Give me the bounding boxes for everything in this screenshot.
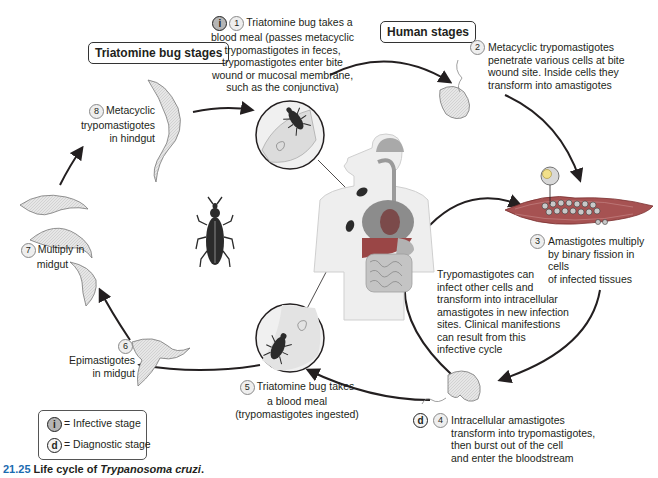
step-text: (trypomastigotes ingested) bbox=[222, 408, 372, 421]
triatomine-bug-icon bbox=[196, 197, 234, 267]
step-text: such as the conjunctiva) bbox=[205, 81, 360, 94]
infective-stage-badge: i bbox=[47, 417, 62, 432]
trypomastigote-4 bbox=[448, 371, 480, 401]
step-number: 1 bbox=[229, 16, 244, 31]
step-text: blood meal (passes metacyclic bbox=[205, 31, 360, 44]
step-text: trypomastigotes bbox=[60, 119, 155, 132]
human-stages-header: Human stages bbox=[380, 21, 476, 43]
caption-text: Life cycle of bbox=[34, 463, 101, 475]
step-text: penetrate various cells at bite bbox=[488, 54, 658, 67]
step-5-label: 5Triatomine bug takes a blood meal (tryp… bbox=[222, 380, 372, 420]
bite-circle-1 bbox=[256, 101, 324, 169]
figure-caption: 21.25 Life cycle of Trypanosoma cruzi. bbox=[3, 463, 204, 475]
step-4-label: d4Intracellular amastigotes transform in… bbox=[451, 414, 641, 464]
step-text: in hindgut bbox=[60, 132, 155, 145]
step-number: 5 bbox=[240, 380, 255, 395]
step-text: wound or mucosal membrane, bbox=[205, 69, 360, 82]
human-figure bbox=[314, 134, 434, 320]
step-number: 2 bbox=[470, 40, 485, 55]
diagnostic-stage-badge: d bbox=[413, 413, 428, 428]
arrow-2-to-3 bbox=[505, 95, 580, 180]
step-text: Amastigotes multiply bbox=[548, 235, 644, 247]
step-text: Triatomine bug takes bbox=[257, 380, 355, 392]
legend-diagnostic: d= Diagnostic stage bbox=[47, 438, 151, 453]
step-text: transform into amastigotes bbox=[488, 79, 658, 92]
arrow-5-to-6 bbox=[140, 365, 260, 370]
step-number: 4 bbox=[433, 413, 448, 428]
step-text: Metacyclic trypomastigotes bbox=[488, 41, 614, 53]
header-label: Human stages bbox=[387, 25, 469, 39]
step-text: a blood meal bbox=[222, 395, 372, 408]
step-text: Triatomine bug takes a bbox=[246, 16, 352, 28]
epimastigote-7a bbox=[20, 195, 88, 215]
caption-suffix: . bbox=[201, 463, 204, 475]
arrow-7-to-8 bbox=[60, 148, 82, 185]
step-text: wound site. Inside cells they bbox=[488, 66, 658, 79]
intestines bbox=[366, 254, 412, 292]
step-number: 6 bbox=[118, 339, 133, 354]
step-2-label: 2Metacyclic trypomastigotes penetrate va… bbox=[488, 41, 658, 91]
step-number: 3 bbox=[530, 234, 545, 249]
figure-number: 21.25 bbox=[3, 463, 31, 475]
note-text: infective cycle bbox=[437, 343, 597, 356]
step-text: trypomastigotes enter bite bbox=[205, 56, 360, 69]
step-text: trypomastigotes in feces, bbox=[205, 44, 360, 57]
bite-circle-5 bbox=[256, 304, 324, 372]
step-text: then burst out of the cell bbox=[451, 439, 641, 452]
diagnostic-stage-badge: d bbox=[47, 438, 62, 453]
step-number: 8 bbox=[89, 104, 104, 119]
note-text: sites. Clinical manifestions bbox=[437, 318, 597, 331]
note-text: amastigotes in new infection bbox=[437, 306, 597, 319]
step-text: and enter the bloodstream bbox=[451, 452, 641, 465]
step-text: Epimastigotes bbox=[69, 354, 135, 366]
epimastigote-6 bbox=[132, 339, 190, 386]
step-text: transform into trypomastigotes, bbox=[451, 427, 641, 440]
step-text: in midgut bbox=[55, 367, 135, 380]
species-name: Trypanosoma cruzi bbox=[100, 463, 201, 475]
legend: i= Infective stage d= Diagnostic stage bbox=[38, 410, 147, 460]
heart bbox=[380, 209, 400, 235]
note-text: Trypomastigotes can bbox=[437, 268, 597, 281]
arrow-6-to-7 bbox=[100, 290, 130, 340]
header-label: Triatomine bug stages bbox=[95, 46, 222, 60]
trypomastigote-2 bbox=[440, 86, 470, 118]
leader-line-1 bbox=[318, 160, 346, 188]
infective-stage-badge: i bbox=[212, 16, 227, 31]
legend-label: = Diagnostic stage bbox=[64, 438, 151, 450]
step-7-label: 7Multiply in midgut bbox=[15, 243, 90, 271]
reinfection-note: Trypomastigotes can infect other cells a… bbox=[437, 268, 597, 356]
step-8-label: 8Metacyclic trypomastigotes in hindgut bbox=[60, 104, 155, 144]
step-number: 7 bbox=[21, 243, 36, 258]
step-text: midgut bbox=[15, 258, 90, 271]
step-text: Intracellular amastigotes bbox=[451, 414, 565, 426]
legend-label: = Infective stage bbox=[64, 417, 141, 429]
step-text: Multiply in bbox=[38, 243, 85, 255]
note-text: can result from this bbox=[437, 331, 597, 344]
step-text: Metacyclic bbox=[106, 104, 155, 116]
note-text: infect other cells and bbox=[437, 281, 597, 294]
legend-infective: i= Infective stage bbox=[47, 417, 141, 432]
step-1-label: i1Triatomine bug takes a blood meal (pas… bbox=[205, 16, 360, 94]
note-text: transform into intracellular bbox=[437, 293, 597, 306]
arrow-8-to-1 bbox=[193, 108, 252, 112]
step-6-label: 6Epimastigotes in midgut bbox=[55, 339, 135, 379]
